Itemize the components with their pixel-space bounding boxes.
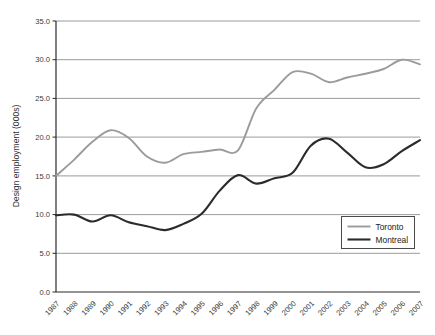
x-tick-label-1997: 1997 xyxy=(225,299,243,317)
y-tick-label-20.0: 20.0 xyxy=(35,133,50,142)
chart-canvas: 0.05.010.015.020.025.030.035.01987198819… xyxy=(0,0,435,335)
legend-label-montreal: Montreal xyxy=(376,235,409,245)
y-tick-label-5.0: 5.0 xyxy=(39,249,50,258)
series-layer xyxy=(56,60,420,231)
x-tick-label-2003: 2003 xyxy=(334,299,352,317)
x-tick-label-1990: 1990 xyxy=(98,299,116,317)
x-tick-label-1999: 1999 xyxy=(261,299,279,317)
x-tick-label-2002: 2002 xyxy=(316,299,334,317)
y-axis-title: Design employment (000s) xyxy=(11,105,21,208)
employment-line-chart-figure: 0.05.010.015.020.025.030.035.01987198819… xyxy=(0,0,435,335)
x-tick-label-1993: 1993 xyxy=(152,299,170,317)
x-tick-label-1995: 1995 xyxy=(189,299,207,317)
legend: TorontoMontreal xyxy=(342,217,415,249)
x-tick-label-2005: 2005 xyxy=(371,299,389,317)
series-line-toronto xyxy=(56,60,420,176)
y-tick-label-35.0: 35.0 xyxy=(35,17,50,26)
x-tick-label-1996: 1996 xyxy=(207,299,225,317)
x-tick-label-1992: 1992 xyxy=(134,299,152,317)
y-tick-label-25.0: 25.0 xyxy=(35,94,50,103)
x-tick-label-1991: 1991 xyxy=(116,299,134,317)
legend-label-toronto: Toronto xyxy=(376,222,404,232)
x-tick-label-2007: 2007 xyxy=(407,299,425,317)
y-tick-label-10.0: 10.0 xyxy=(35,210,50,219)
x-tick-label-2004: 2004 xyxy=(352,299,370,317)
x-tick-label-2006: 2006 xyxy=(389,299,407,317)
x-tick-label-1989: 1989 xyxy=(79,299,97,317)
y-tick-label-15.0: 15.0 xyxy=(35,172,50,181)
x-tick-label-1987: 1987 xyxy=(43,299,61,317)
y-tick-label-30.0: 30.0 xyxy=(35,55,50,64)
x-tick-label-2001: 2001 xyxy=(298,299,316,317)
y-tick-label-0.0: 0.0 xyxy=(39,288,50,297)
x-tick-label-1998: 1998 xyxy=(243,299,261,317)
x-tick-label-2000: 2000 xyxy=(280,299,298,317)
x-tick-label-1994: 1994 xyxy=(170,299,188,317)
x-tick-label-1988: 1988 xyxy=(61,299,79,317)
